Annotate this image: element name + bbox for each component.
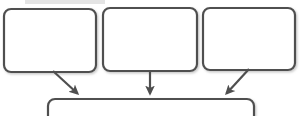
- diagram-canvas: [0, 0, 301, 116]
- flow-node-2[interactable]: [103, 8, 197, 71]
- arrow-node3-to-node4: [227, 69, 250, 94]
- node-group-bottom-row: [48, 99, 254, 116]
- flow-node-1[interactable]: [4, 9, 96, 72]
- node-group-top-row: [4, 8, 295, 72]
- flow-node-4-shape[interactable]: [48, 99, 254, 116]
- flow-node-2-shape[interactable]: [103, 8, 197, 71]
- flow-node-3-shape[interactable]: [203, 8, 295, 70]
- flow-node-4[interactable]: [48, 99, 254, 116]
- flow-node-1-shape[interactable]: [4, 9, 96, 72]
- flow-node-3[interactable]: [203, 8, 295, 70]
- top-cropped-band: [25, 0, 105, 4]
- flowchart-svg: [0, 0, 301, 116]
- arrow-node1-to-node4: [53, 71, 78, 94]
